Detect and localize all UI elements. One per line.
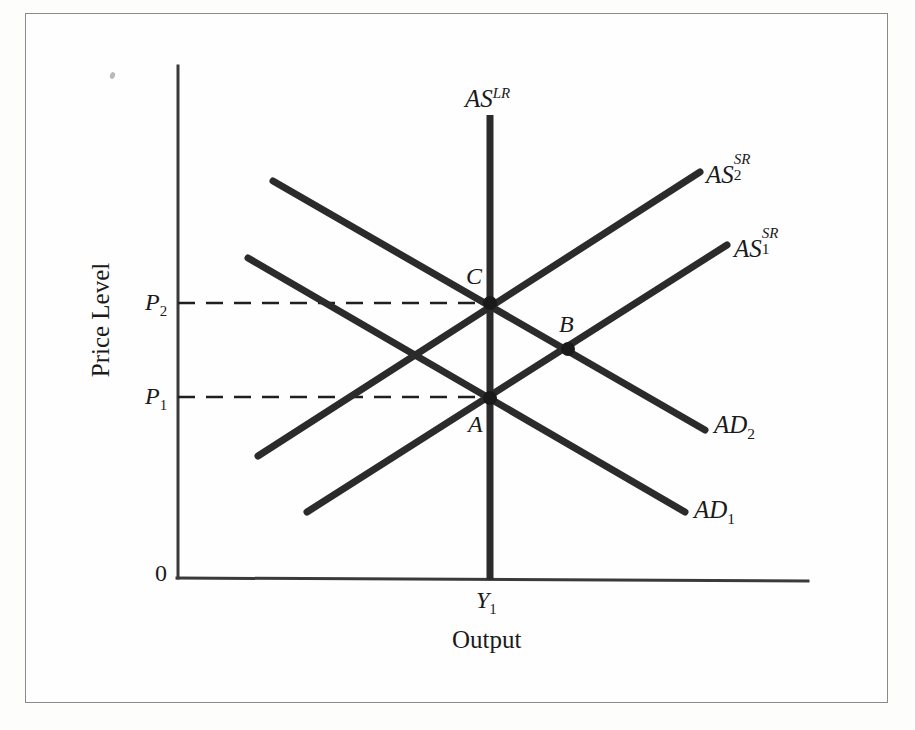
equilibrium-point-b	[561, 342, 575, 356]
equilibrium-point-a	[483, 391, 497, 405]
curve-label-as-sr-1-base: AS	[734, 235, 762, 262]
curve-label-as-sr-2-sup: SR	[734, 152, 751, 167]
curve-label-as-lr: ASLR	[465, 86, 510, 111]
ad-as-chart-canvas	[0, 0, 915, 730]
y-axis-title: Price Level	[88, 263, 113, 378]
curve-label-ad-1: AD1	[694, 497, 735, 522]
curve-as-sr-1	[307, 245, 727, 512]
curve-label-as-sr-2-base: AS	[706, 161, 734, 188]
y-tick-label-p2-base: P	[145, 289, 160, 315]
y-tick-label-p2: P2	[145, 290, 167, 314]
curve-label-as-sr-2-indices: SR2	[734, 158, 750, 183]
curve-label-ad-2-sub: 2	[747, 425, 755, 442]
curve-label-as-sr-2-sub: 2	[734, 167, 742, 183]
x-axis-title: Output	[452, 627, 521, 652]
equilibrium-point-c	[483, 296, 497, 310]
x-tick-label-y1-base: Y	[476, 587, 489, 613]
y-tick-label-p1: P1	[145, 384, 167, 408]
curve-label-as-sr-2: ASSR2	[706, 158, 749, 187]
y-tick-label-p1-sub: 1	[160, 397, 167, 413]
curve-label-ad-2-base: AD	[714, 411, 747, 438]
y-tick-label-p1-base: P	[145, 383, 160, 409]
point-label-b: B	[559, 312, 574, 336]
figure-root: ASLR ASSR2 ASSR1 AD2 AD1 C B A P2 P1 Y1 …	[0, 0, 915, 730]
curve-label-as-sr-1-sup: SR	[762, 226, 779, 241]
curve-label-as-lr-sup: LR	[493, 85, 511, 101]
curve-label-ad-1-base: AD	[694, 496, 727, 523]
curve-label-ad-2: AD2	[714, 412, 755, 437]
x-tick-label-y1-sub: 1	[489, 601, 496, 617]
curve-label-as-sr-1-indices: SR1	[762, 232, 778, 257]
point-label-a: A	[468, 412, 483, 436]
curve-label-as-sr-1: ASSR1	[734, 232, 777, 261]
curve-label-as-sr-1-sub: 1	[762, 241, 770, 257]
y-tick-label-p2-sub: 2	[160, 303, 167, 319]
origin-label: 0	[155, 561, 167, 585]
curve-label-ad-1-sub: 1	[727, 510, 735, 527]
curve-label-as-lr-base: AS	[465, 85, 493, 112]
x-tick-label-y1: Y1	[476, 588, 497, 612]
point-label-c: C	[466, 264, 482, 288]
